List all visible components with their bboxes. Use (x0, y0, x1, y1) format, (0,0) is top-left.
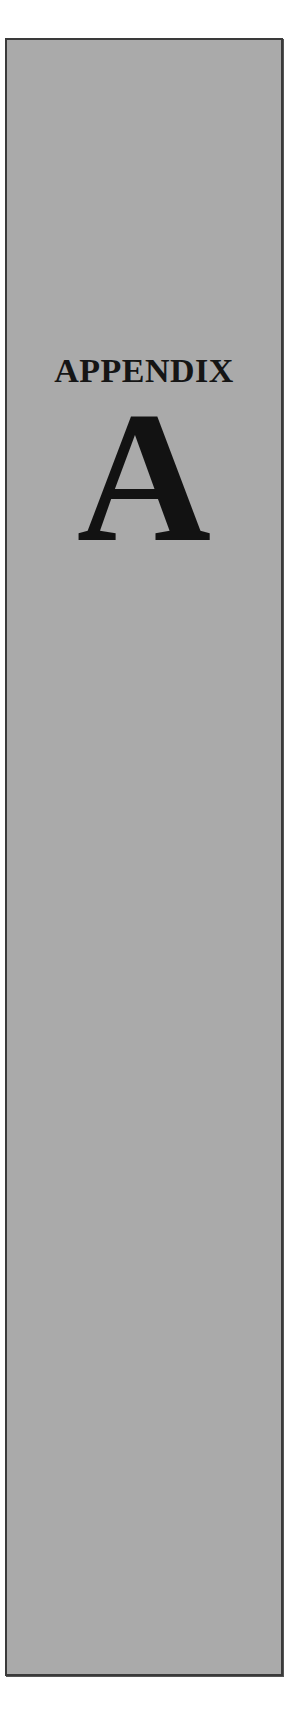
appendix-divider-panel: APPENDIX A (5, 38, 283, 1676)
appendix-letter: A (7, 384, 281, 570)
